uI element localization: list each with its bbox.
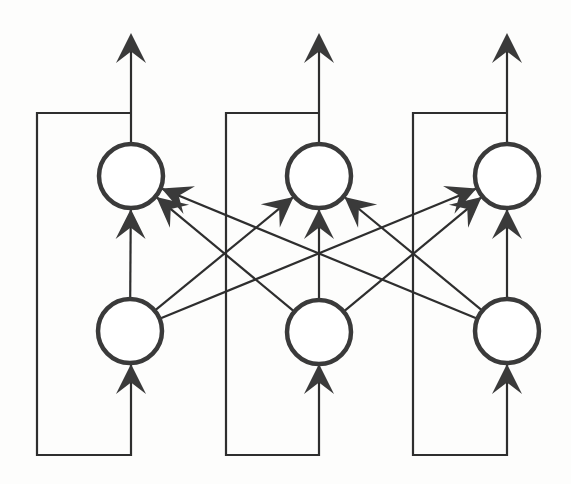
hidden-node-h2 (287, 144, 351, 208)
input-node-i3 (475, 299, 539, 363)
hidden-node-h3 (475, 144, 539, 208)
hidden-node-h1 (99, 144, 163, 208)
edge-arrow-head-icon (344, 197, 377, 228)
rnn-diagram (0, 0, 571, 484)
input-node-i1 (98, 299, 162, 363)
network-diagram-svg (0, 0, 571, 484)
edge-arrow-head-icon (449, 197, 482, 228)
output-arrows (116, 33, 522, 144)
edge-arrow-head-icon (156, 197, 189, 228)
edge-arrow-head-icon (261, 197, 294, 228)
input-node-i2 (287, 300, 351, 364)
